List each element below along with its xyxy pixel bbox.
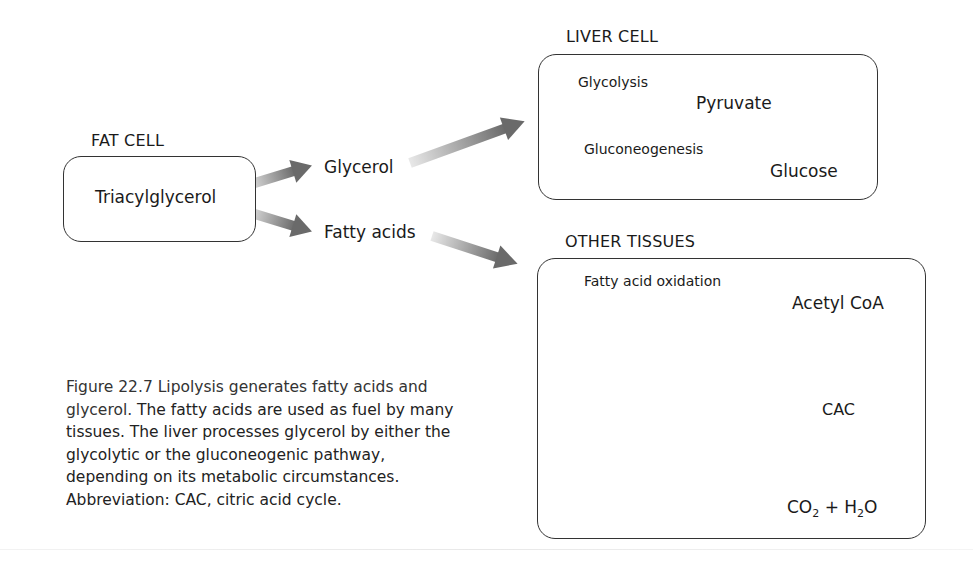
- arrow-glycerol-to-liver: [406, 110, 529, 174]
- bottom-divider: [0, 549, 973, 550]
- glycerol-label: Glycerol: [324, 157, 394, 177]
- arrow-fatty-acids-to-tissues: [428, 225, 521, 276]
- gluconeogenesis-label: Gluconeogenesis: [584, 141, 703, 157]
- triacylglycerol-label: Triacylglycerol: [95, 187, 216, 207]
- plus-h-text: + H: [819, 497, 857, 517]
- other-tissues-heading: OTHER TISSUES: [565, 232, 695, 251]
- o-text: O: [864, 497, 877, 517]
- cac-label: CAC: [822, 400, 855, 419]
- acetyl-coa-label: Acetyl CoA: [792, 293, 884, 313]
- figure-caption: Figure 22.7 Lipolysis generates fatty ac…: [66, 376, 466, 511]
- co-text: CO: [787, 497, 812, 517]
- fatty-acid-oxidation-label: Fatty acid oxidation: [584, 273, 721, 289]
- pyruvate-label: Pyruvate: [696, 93, 772, 113]
- glucose-label: Glucose: [770, 161, 838, 181]
- liver-cell-heading: LIVER CELL: [566, 27, 658, 46]
- co2-h2o-label: CO2 + H2O: [787, 497, 878, 520]
- fatty-acids-label: Fatty acids: [324, 222, 416, 242]
- fat-cell-heading: FAT CELL: [91, 131, 164, 150]
- glycolysis-label: Glycolysis: [578, 74, 648, 90]
